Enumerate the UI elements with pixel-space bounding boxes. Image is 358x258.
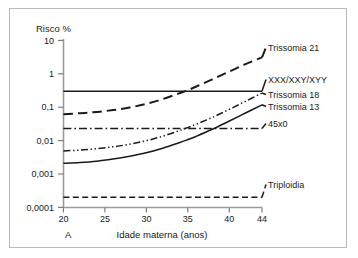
series-label-45x0: 45x0 (268, 119, 288, 129)
risk-by-maternal-age-chart: Risco % 10 1 0,1 0,01 0,001 0,0001 20 25… (0, 0, 358, 258)
axes (63, 39, 262, 208)
figure-container: Risco % 10 1 0,1 0,01 0,001 0,0001 20 25… (0, 0, 358, 258)
series-label-xxx-xxy-xyy: XXX/XXY/XYY (268, 75, 327, 85)
x-tick-label-30: 30 (141, 214, 151, 224)
series-leader-45x0 (262, 124, 266, 129)
series-label-trissomia-21: Trissomia 21 (268, 43, 319, 53)
x-tick-label-44: 44 (257, 214, 267, 224)
panel-label: A (65, 229, 72, 240)
y-tick-marks (58, 40, 64, 207)
series-label-trissomia-13: Trissomia 13 (268, 102, 319, 112)
series-leader-trissomia-21 (262, 48, 266, 58)
series-leader-trissomia-18 (262, 93, 266, 94)
x-tick-label-25: 25 (100, 214, 110, 224)
y-tick-label-1: 1 (49, 69, 54, 79)
x-tick-label-40: 40 (224, 214, 234, 224)
series-leader-trissomia-13 (262, 105, 266, 107)
x-tick-label-35: 35 (183, 214, 193, 224)
series-line-trissomia-21 (63, 57, 262, 114)
series-leader-xxx-xxy-xyy (262, 80, 266, 92)
series-line-trissomia-18 (63, 93, 262, 151)
series-layer (63, 48, 266, 198)
x-tick-label-20: 20 (58, 214, 68, 224)
series-line-trissomia-13 (63, 105, 262, 163)
series-label-trissomia-18: Trissomia 18 (268, 90, 319, 100)
y-axis-title: Risco % (36, 23, 71, 34)
y-tick-label-0-01: 0,01 (36, 136, 54, 146)
y-tick-label-0-0001: 0,0001 (26, 203, 54, 213)
y-tick-label-0-001: 0,001 (31, 169, 54, 179)
series-label-triploidia: Triploidia (268, 180, 304, 190)
y-tick-label-10: 10 (44, 36, 54, 46)
x-axis-title: Idade materna (anos) (117, 229, 208, 240)
series-leader-triploidia (262, 185, 266, 198)
y-tick-label-0-1: 0,1 (41, 102, 54, 112)
